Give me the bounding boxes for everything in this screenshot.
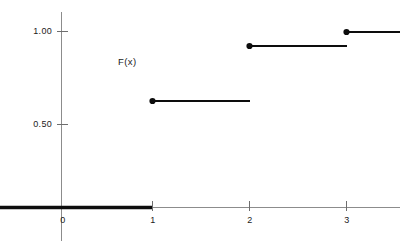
y-axis-tick-label-1: 1.00: [18, 26, 52, 36]
jump-point-x2: [246, 43, 252, 49]
function-label: F(x): [118, 56, 136, 67]
jump-point-x3: [343, 29, 349, 35]
jump-point-x1: [149, 98, 155, 104]
step-function-chart: 1.00 0.50 0 1 2 3 F(x): [0, 0, 411, 241]
x-axis-tick-label-1: 1: [145, 215, 161, 225]
x-axis-tick-label-2: 2: [242, 215, 258, 225]
x-axis-tick-label-0: 0: [55, 215, 71, 225]
y-axis-tick-label-0-5: 0.50: [18, 119, 52, 129]
x-axis-tick-label-3: 3: [339, 215, 355, 225]
plot-area: [0, 0, 411, 241]
